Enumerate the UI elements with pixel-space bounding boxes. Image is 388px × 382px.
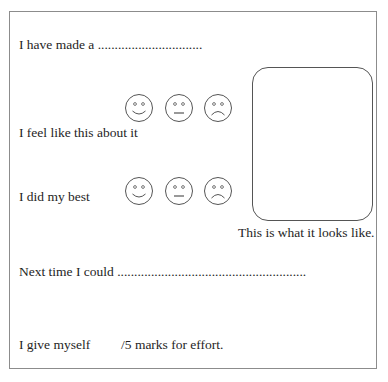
neutral-face-icon[interactable] xyxy=(164,176,194,206)
next-blank[interactable]: ........................................… xyxy=(117,264,306,279)
made-blank[interactable]: ............................... xyxy=(98,37,203,52)
made-line: I have made a ..........................… xyxy=(19,37,202,53)
best-label: I did my best xyxy=(19,189,90,205)
next-label: Next time I could xyxy=(19,264,114,279)
marks-label: I give myself xyxy=(19,337,90,353)
neutral-face-icon[interactable] xyxy=(164,93,194,123)
made-label: I have made a xyxy=(19,37,94,52)
sad-face-icon[interactable] xyxy=(203,93,233,123)
marks-suffix: /5 marks for effort. xyxy=(121,337,223,353)
drawing-box[interactable] xyxy=(252,67,373,221)
sad-face-icon[interactable] xyxy=(203,176,233,206)
happy-face-icon[interactable] xyxy=(124,93,154,123)
happy-face-icon[interactable] xyxy=(124,176,154,206)
picture-caption: This is what it looks like. xyxy=(238,225,375,241)
feel-label: I feel like this about it xyxy=(19,125,138,141)
next-line: Next time I could ......................… xyxy=(19,264,306,280)
